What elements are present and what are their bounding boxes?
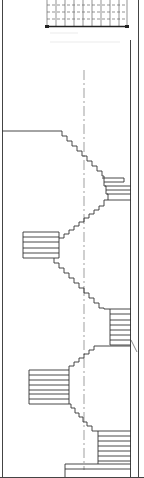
section-mark: [131, 340, 137, 352]
stair-flights: [2, 131, 131, 477]
frame: [0, 0, 144, 478]
stair-section-drawing: [0, 0, 144, 478]
top-grid-base: [45, 25, 129, 42]
top-grid: [47, 0, 127, 26]
